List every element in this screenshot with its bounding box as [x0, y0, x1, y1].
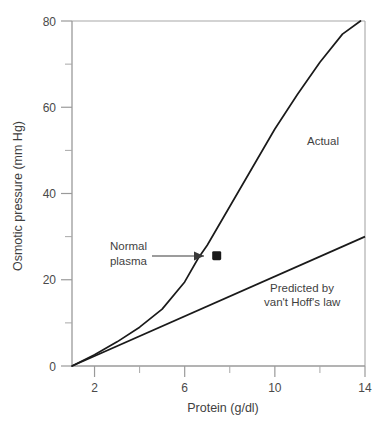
- x-tick-label-10: 10: [268, 381, 282, 395]
- chart-background: [0, 0, 391, 422]
- y-axis-title: Osmotic pressure (mm Hg): [11, 121, 25, 271]
- x-tick-label-2: 2: [91, 381, 98, 395]
- x-tick-label-6: 6: [181, 381, 188, 395]
- normal-plasma-label-line2: plasma: [110, 255, 148, 267]
- x-tick-label-14: 14: [358, 381, 372, 395]
- normal-plasma-label-line1: Normal: [110, 240, 147, 252]
- y-tick-label-20: 20: [43, 273, 57, 287]
- x-axis-title: Protein (g/dl): [187, 401, 259, 415]
- normal-plasma-marker[interactable]: [212, 251, 221, 260]
- y-tick-label-0: 0: [49, 360, 56, 374]
- chart-canvas: 0 20 40 60 80 2 6 10 14 Protein (g/dl) O…: [0, 0, 391, 422]
- osmotic-pressure-chart: 0 20 40 60 80 2 6 10 14 Protein (g/dl) O…: [0, 0, 391, 422]
- y-tick-label-60: 60: [43, 101, 57, 115]
- actual-series-label: Actual: [307, 135, 339, 147]
- vant-hoff-label-line1: Predicted by: [270, 282, 334, 294]
- vant-hoff-label-line2: van't Hoff's law: [264, 296, 341, 308]
- y-tick-label-80: 80: [43, 15, 57, 29]
- y-tick-label-40: 40: [43, 187, 57, 201]
